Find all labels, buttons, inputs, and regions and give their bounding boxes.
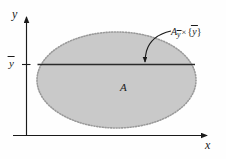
region-label-text: A — [120, 81, 127, 93]
slice-set-subscript: y — [177, 31, 180, 39]
slice-label: Ay×{y} — [171, 27, 201, 39]
slice-element-glyph: y — [192, 27, 196, 37]
y-axis-label: y — [12, 8, 17, 20]
x-axis-label-text: x — [205, 138, 210, 152]
overbar — [8, 56, 15, 57]
region-label: A — [120, 82, 127, 93]
x-axis-label: x — [205, 139, 210, 151]
y-bar-glyph: y — [9, 58, 14, 69]
y-bar-base: y — [9, 57, 14, 69]
overbar — [191, 25, 197, 26]
overbar — [176, 30, 181, 31]
y-bar-tick-label: y — [9, 58, 14, 69]
slice-element-base: y — [192, 26, 196, 37]
close-brace: } — [197, 26, 202, 37]
region-ellipse — [37, 32, 196, 128]
diagram-canvas — [0, 0, 226, 159]
figure-container: y x y A Ay×{y} — [0, 0, 226, 159]
slice-set-subscript-base: y — [177, 30, 180, 39]
y-axis-label-text: y — [12, 7, 17, 21]
